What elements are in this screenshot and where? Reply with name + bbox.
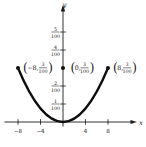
y-tick-fraction-numerator: 4 bbox=[54, 45, 57, 50]
point-coords-text: −8, bbox=[27, 64, 38, 71]
point-label-right: ( 8, 3 100 ) bbox=[113, 61, 137, 75]
x-axis-label: x bbox=[139, 119, 143, 127]
fraction-numerator: 3 bbox=[41, 62, 44, 67]
y-tick-fraction-denominator: 100 bbox=[51, 52, 60, 57]
fraction-numerator: 3 bbox=[83, 62, 86, 67]
y-tick-fraction-numerator: 5 bbox=[54, 27, 57, 32]
x-tick-label: −8 bbox=[14, 128, 23, 134]
data-point bbox=[106, 66, 110, 70]
y-axis-label: y bbox=[62, 1, 67, 9]
x-tick-label: 8 bbox=[106, 128, 110, 134]
y-tick-fraction-denominator: 100 bbox=[51, 106, 60, 111]
fraction-denominator: 100 bbox=[80, 69, 89, 74]
fraction-numerator: 3 bbox=[125, 62, 128, 67]
plot-canvas: x y −8−448 1100210041005100 ( −8, 3 100 … bbox=[0, 0, 146, 147]
parabola-figure: x y −8−448 1100210041005100 ( −8, 3 100 … bbox=[0, 0, 146, 147]
x-tick-label: 4 bbox=[84, 128, 88, 134]
close-paren: ) bbox=[48, 61, 53, 75]
data-point bbox=[16, 66, 20, 70]
y-tick-fraction-numerator: 2 bbox=[54, 81, 57, 86]
data-point bbox=[61, 66, 65, 70]
close-paren: ) bbox=[132, 61, 137, 75]
x-axis-arrowhead bbox=[131, 120, 137, 124]
y-tick-fraction-numerator: 1 bbox=[54, 99, 57, 104]
y-tick-fraction-denominator: 100 bbox=[51, 34, 60, 39]
x-tick-label: −4 bbox=[36, 128, 45, 134]
point-label-center: ( 0, 3 100 ) bbox=[71, 61, 95, 75]
fraction-denominator: 100 bbox=[38, 69, 47, 74]
point-label-left: ( −8, 3 100 ) bbox=[23, 61, 53, 75]
fraction-denominator: 100 bbox=[122, 69, 131, 74]
y-tick-fraction-denominator: 100 bbox=[51, 88, 60, 93]
close-paren: ) bbox=[90, 61, 95, 75]
